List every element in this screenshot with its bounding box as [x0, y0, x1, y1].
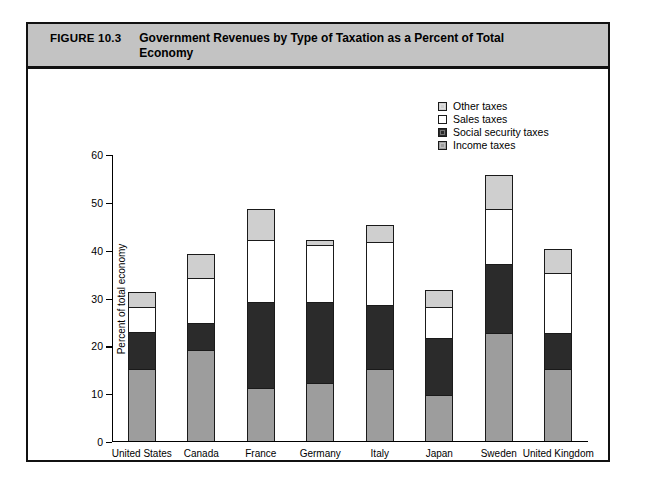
legend-label: Other taxes	[453, 100, 507, 112]
bar-segment	[544, 333, 572, 369]
y-tick-label: 30	[91, 293, 103, 305]
stacked-bar[interactable]	[366, 225, 394, 440]
bar-segment	[128, 332, 156, 369]
legend-item: Income taxes	[438, 139, 549, 151]
bar-segment	[247, 388, 275, 441]
bar-segment	[187, 254, 215, 278]
bar-group: France	[231, 156, 291, 441]
legend-item: Sales taxes	[438, 113, 549, 125]
legend-label: Income taxes	[453, 139, 515, 151]
bar-segment	[306, 245, 334, 302]
y-tick-mark	[106, 442, 112, 443]
bar-segment	[128, 369, 156, 441]
chart-legend: Other taxesSales taxesSocial security ta…	[438, 100, 549, 151]
bar-segment	[425, 290, 453, 307]
bar-segment	[247, 240, 275, 302]
bar-group: United States	[112, 156, 172, 441]
bar-segment	[366, 242, 394, 305]
bar-segment	[187, 323, 215, 349]
bar-segment	[485, 175, 513, 208]
figure-header-band: FIGURE 10.3 Government Revenues by Type …	[28, 24, 608, 69]
legend-label: Sales taxes	[453, 113, 507, 125]
bar-segment	[425, 338, 453, 395]
bars-layer: United StatesCanadaFranceGermanyItalyJap…	[112, 156, 588, 441]
figure-page: FIGURE 10.3 Government Revenues by Type …	[0, 0, 648, 484]
x-axis-category-label: United Kingdom	[521, 448, 595, 460]
x-axis-line	[112, 441, 588, 442]
bar-segment	[128, 292, 156, 307]
y-tick-label: 40	[91, 245, 103, 257]
bar-segment	[187, 350, 215, 441]
y-tick-label: 60	[91, 149, 103, 161]
bar-segment	[306, 383, 334, 440]
bar-segment	[485, 333, 513, 441]
y-tick-label: 20	[91, 340, 103, 352]
bar-segment	[306, 302, 334, 383]
y-tick-label: 10	[91, 388, 103, 400]
bar-segment	[544, 369, 572, 441]
bar-segment	[366, 305, 394, 369]
figure-number: FIGURE 10.3	[28, 31, 121, 46]
stacked-bar[interactable]	[187, 254, 215, 441]
stacked-bar[interactable]	[544, 249, 572, 440]
bar-segment	[485, 264, 513, 333]
legend-swatch-icon	[438, 115, 447, 124]
bar-group: Canada	[172, 156, 232, 441]
legend-swatch-icon	[438, 102, 447, 111]
legend-swatch-icon	[438, 128, 447, 137]
legend-item: Other taxes	[438, 100, 549, 112]
figure-title: Government Revenues by Type of Taxation …	[121, 31, 539, 61]
bar-group: United Kingdom	[529, 156, 589, 441]
bar-group: Sweden	[469, 156, 529, 441]
legend-swatch-icon	[438, 141, 447, 150]
figure-frame: FIGURE 10.3 Government Revenues by Type …	[26, 22, 610, 462]
bar-segment	[544, 273, 572, 333]
stacked-bar[interactable]	[128, 292, 156, 441]
bar-segment	[425, 395, 453, 440]
legend-item: Social security taxes	[438, 126, 549, 138]
bar-segment	[425, 307, 453, 338]
bar-segment	[544, 249, 572, 273]
stacked-bar[interactable]	[247, 209, 275, 441]
bar-segment	[366, 369, 394, 441]
bar-group: Germany	[291, 156, 351, 441]
bar-segment	[247, 302, 275, 388]
stacked-bar[interactable]	[425, 290, 453, 441]
chart-axes: Percent of total economy 0102030405060 U…	[112, 155, 588, 442]
legend-label: Social security taxes	[453, 126, 549, 138]
bar-segment	[247, 209, 275, 240]
bar-group: Italy	[350, 156, 410, 441]
stacked-bar[interactable]	[485, 175, 513, 440]
bar-segment	[128, 307, 156, 332]
y-tick-label: 0	[97, 436, 103, 448]
y-tick-label: 50	[91, 197, 103, 209]
bar-segment	[485, 209, 513, 264]
stacked-bar[interactable]	[306, 240, 334, 441]
plot-area: Other taxesSales taxesSocial security ta…	[28, 69, 608, 460]
bar-segment	[366, 225, 394, 242]
bar-group: Japan	[410, 156, 470, 441]
bar-segment	[187, 278, 215, 323]
